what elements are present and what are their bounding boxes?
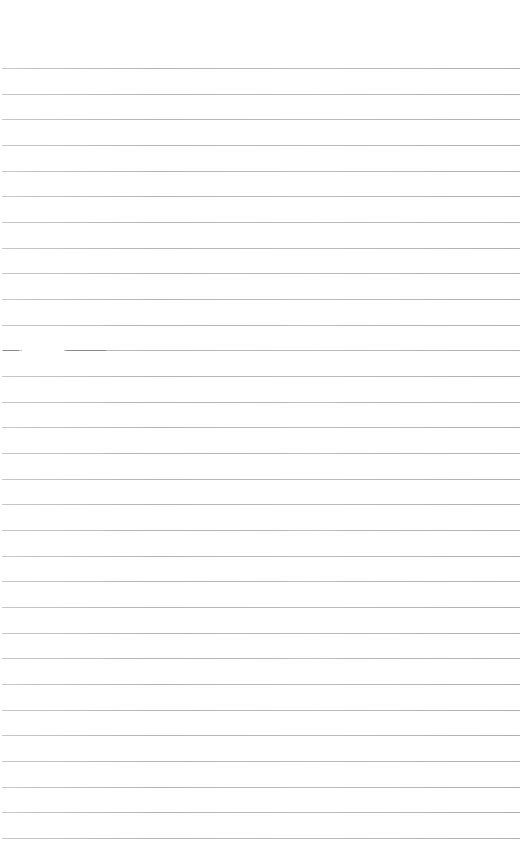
ruled-line [2,196,520,197]
ruled-line [2,607,520,608]
ruled-line [2,402,520,403]
ruled-line [2,273,520,274]
ruled-line [2,761,520,762]
ruled-line [2,787,520,788]
line-dark-segment [66,350,106,351]
ruled-line [2,735,520,736]
ruled-line [2,581,520,582]
ruled-line [2,248,520,249]
ruled-line [2,710,520,711]
ruled-line [2,504,520,505]
ruled-line [2,171,520,172]
ruled-line [2,222,520,223]
ruled-line [2,119,520,120]
ruled-line [2,684,520,685]
ruled-line [2,427,520,428]
ruled-line [2,633,520,634]
line-dark-segment [3,350,19,351]
ruled-line [2,479,520,480]
ruled-line [2,838,520,839]
ruled-line [2,812,520,813]
ruled-line [2,145,520,146]
lined-paper-sheet [0,0,530,856]
ruled-line [2,68,520,69]
ruled-line [2,556,520,557]
ruled-line [2,658,520,659]
ruled-line [2,325,520,326]
ruled-line [2,530,520,531]
ruled-line [2,94,520,95]
ruled-line [2,299,520,300]
ruled-line [2,376,520,377]
line-gap-artifact [22,349,64,352]
ruled-line [2,453,520,454]
